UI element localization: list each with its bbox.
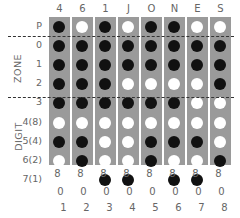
open-hole [122, 117, 134, 129]
footer-value: 0 [118, 186, 141, 197]
open-hole [168, 117, 180, 129]
open-hole [168, 78, 180, 90]
card-column [118, 17, 139, 165]
punched-hole [53, 40, 65, 52]
row-label: 0 [36, 39, 42, 50]
open-hole [99, 136, 111, 148]
punched-hole [76, 136, 88, 148]
punched-hole [122, 59, 134, 71]
open-hole [191, 117, 203, 129]
punched-hole [76, 40, 88, 52]
row-label: 2 [36, 77, 42, 88]
punched-hole [99, 97, 111, 109]
footer-value: 4 [121, 202, 144, 213]
punched-hole [214, 155, 226, 167]
open-hole [214, 97, 226, 109]
punched-hole [145, 59, 157, 71]
row-label: 1 [36, 58, 42, 69]
column-header: S [209, 3, 232, 14]
punched-hole [99, 59, 111, 71]
open-hole [122, 136, 134, 148]
punched-hole [122, 97, 134, 109]
card-column [210, 17, 231, 165]
punched-hole [145, 155, 157, 167]
punched-hole [145, 21, 157, 33]
punched-hole [168, 136, 180, 148]
column-header: O [140, 3, 163, 14]
open-hole [145, 78, 157, 90]
row-label: 7(1) [22, 173, 42, 184]
open-hole [214, 117, 226, 129]
zone-label: ZONE [12, 54, 23, 83]
open-hole [214, 21, 226, 33]
punched-hole [76, 78, 88, 90]
footer-value: 6 [167, 202, 190, 213]
footer-value: 0 [141, 186, 164, 197]
column-header: 6 [71, 3, 94, 14]
punched-hole [191, 59, 203, 71]
footer-value: 8 [92, 168, 115, 179]
column-header: J [117, 3, 140, 14]
punched-hole [76, 97, 88, 109]
open-hole [191, 97, 203, 109]
punched-hole [145, 136, 157, 148]
open-hole [53, 155, 65, 167]
punched-hole [76, 155, 88, 167]
footer-value: 0 [49, 186, 72, 197]
group-divider [8, 97, 234, 98]
open-hole [122, 78, 134, 90]
punched-hole [168, 97, 180, 109]
open-hole [191, 78, 203, 90]
card-column [95, 17, 116, 165]
punched-hole [214, 59, 226, 71]
punched-hole [168, 59, 180, 71]
card-column [141, 17, 162, 165]
open-hole [76, 21, 88, 33]
column-header: E [186, 3, 209, 14]
open-hole [76, 117, 88, 129]
footer-value: 0 [187, 186, 210, 197]
row-label: P [36, 20, 42, 31]
row-label: 5(4) [22, 135, 42, 146]
group-divider [8, 36, 234, 37]
footer-value: 0 [72, 186, 95, 197]
open-hole [122, 21, 134, 33]
footer-value: 5 [144, 202, 167, 213]
open-hole [99, 117, 111, 129]
footer-value: 0 [210, 186, 233, 197]
row-label: 6(2) [22, 154, 42, 165]
open-hole [122, 155, 134, 167]
open-hole [168, 155, 180, 167]
punched-hole [191, 136, 203, 148]
punched-hole [168, 40, 180, 52]
open-hole [191, 155, 203, 167]
digit-label: DIGIT [13, 122, 24, 151]
card-column [49, 17, 70, 165]
punched-hole [145, 40, 157, 52]
open-hole [145, 117, 157, 129]
punched-hole [53, 78, 65, 90]
footer-value: 8 [115, 168, 138, 179]
punched-hole [53, 59, 65, 71]
footer-value: 8 [46, 168, 69, 179]
punched-hole [99, 21, 111, 33]
row-label: 4(8) [22, 116, 42, 127]
punched-hole [99, 78, 111, 90]
footer-value: 1 [52, 202, 75, 213]
footer-value: 3 [98, 202, 121, 213]
punched-hole [214, 78, 226, 90]
column-header: N [163, 3, 186, 14]
footer-value: 7 [190, 202, 213, 213]
punched-hole [53, 97, 65, 109]
footer-value: 0 [95, 186, 118, 197]
open-hole [191, 21, 203, 33]
open-hole [99, 155, 111, 167]
footer-value: 8 [207, 168, 230, 179]
column-header: 1 [94, 3, 117, 14]
footer-value: 2 [75, 202, 98, 213]
footer-value: 8 [69, 168, 92, 179]
card-column [164, 17, 185, 165]
open-hole [53, 117, 65, 129]
punched-hole [122, 40, 134, 52]
punched-hole [99, 40, 111, 52]
